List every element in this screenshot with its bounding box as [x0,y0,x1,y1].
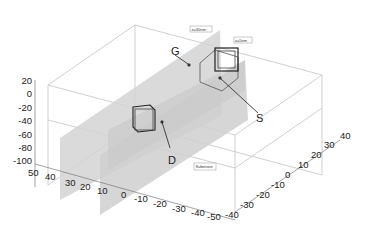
label-S: S [256,112,263,124]
svg-text:10: 10 [298,159,309,170]
svg-text:-80: -80 [18,142,32,153]
label-z30: z=30nm [192,27,207,32]
svg-text:-50: -50 [207,211,221,222]
y-axis: -40 -30 -20 -10 0 10 20 30 40 [225,130,351,220]
svg-text:0: 0 [285,169,290,180]
device-3d-diagram: G S D z=30nm z=5nm Substrate 20 0 -20 -4… [0,0,365,234]
svg-text:50: 50 [28,167,39,178]
svg-text:-20: -20 [153,198,167,209]
label-substrate: Substrate [196,164,214,169]
svg-text:0: 0 [121,189,126,200]
svg-text:40: 40 [340,130,351,141]
svg-text:40: 40 [45,171,56,182]
svg-text:-60: -60 [18,129,32,140]
svg-text:-100: -100 [13,155,32,166]
svg-text:30: 30 [324,139,335,150]
label-D: D [168,154,176,166]
svg-text:-40: -40 [191,207,205,218]
svg-text:-10: -10 [134,193,148,204]
svg-text:20: 20 [311,149,322,160]
svg-text:-30: -30 [172,203,186,214]
svg-text:20: 20 [21,75,32,86]
svg-text:-20: -20 [18,102,32,113]
svg-text:-20: -20 [256,189,270,200]
label-z5: z=5nm [235,38,248,43]
svg-text:20: 20 [80,181,91,192]
svg-text:-30: -30 [240,199,254,210]
svg-text:-40: -40 [18,115,32,126]
svg-text:0: 0 [27,88,32,99]
label-G: G [171,45,180,57]
svg-text:30: 30 [65,177,76,188]
svg-text:10: 10 [97,185,108,196]
svg-text:-10: -10 [271,179,285,190]
svg-text:-40: -40 [225,209,239,220]
